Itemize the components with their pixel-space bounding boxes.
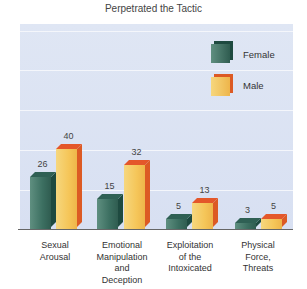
data-label: 15	[95, 181, 125, 191]
category-label: Exploitationof theIntoxicated	[155, 240, 225, 275]
male-bar	[192, 203, 218, 229]
category-label: EmotionalManipulationandDeception	[87, 240, 157, 286]
legend-female-swatch-icon	[211, 44, 230, 63]
category-label: PhysicalForce,Threats	[223, 240, 293, 275]
data-label: 13	[190, 185, 220, 195]
gridline	[20, 110, 293, 111]
data-label: 26	[28, 159, 58, 169]
male-bar	[124, 165, 150, 229]
data-label: 32	[122, 147, 152, 157]
data-label: 5	[259, 201, 289, 211]
x-axis-baseline	[18, 229, 293, 230]
female-bar	[30, 177, 56, 229]
data-label: 40	[54, 131, 84, 141]
legend-male-label: Male	[243, 80, 264, 91]
female-bar	[97, 199, 123, 229]
chart-title: Perpetrated the Tactic	[0, 3, 307, 14]
female-bar	[235, 223, 261, 229]
legend-male-swatch-icon	[211, 77, 230, 96]
male-bar	[56, 149, 82, 229]
gridline	[20, 31, 293, 32]
female-bar	[166, 219, 192, 229]
data-label: 5	[164, 201, 194, 211]
category-label: SexualArousal	[20, 240, 90, 263]
male-bar	[261, 219, 287, 229]
gridline	[20, 70, 293, 71]
legend-female-label: Female	[243, 49, 275, 60]
